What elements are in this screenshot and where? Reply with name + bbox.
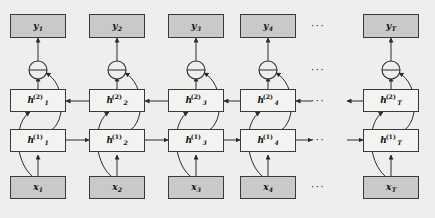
ellipsis-output-row: ···: [311, 20, 325, 31]
hidden2-node-T[interactable]: h(2)T: [363, 89, 419, 112]
hidden1-label-1: h(1)1: [27, 136, 48, 145]
output-node-2[interactable]: y2: [89, 14, 145, 38]
hidden1-node-2[interactable]: h(1)2: [89, 129, 145, 152]
hidden1-label-4: h(1)4: [257, 136, 278, 145]
input-label-2: x2: [112, 183, 122, 192]
output-node-4[interactable]: y4: [240, 14, 296, 38]
hidden2-label-T: h(2)T: [380, 96, 401, 105]
hidden2-label-1: h(2)1: [27, 96, 48, 105]
hidden1-label-3: h(1)3: [185, 136, 206, 145]
output-label-T: yT: [386, 22, 396, 31]
input-node-2[interactable]: x2: [89, 176, 145, 199]
input-label-3: x3: [191, 183, 201, 192]
output-label-3: y3: [191, 22, 201, 31]
output-label-4: y4: [263, 22, 273, 31]
input-node-1[interactable]: x1: [10, 176, 66, 199]
hidden1-node-3[interactable]: h(1)3: [168, 129, 224, 152]
hidden2-label-3: h(2)3: [185, 96, 206, 105]
output-label-1: y1: [33, 22, 43, 31]
ellipsis-input-row: ···: [311, 181, 325, 192]
output-node-1[interactable]: y1: [10, 14, 66, 38]
input-label-T: xT: [386, 183, 396, 192]
hidden2-label-2: h(2)2: [106, 96, 127, 105]
hidden2-node-3[interactable]: h(2)3: [168, 89, 224, 112]
output-node-3[interactable]: y3: [168, 14, 224, 38]
input-node-4[interactable]: x4: [240, 176, 296, 199]
ellipsis-hidden2-row: ···: [311, 95, 325, 106]
output-node-T[interactable]: yT: [363, 14, 419, 38]
hidden1-node-T[interactable]: h(1)T: [363, 129, 419, 152]
bidirectional-rnn-diagram: y1 y2 y3 y4 yT h(2)1 h(2)2 h(2)3 h(2)4 h…: [0, 0, 435, 218]
input-node-T[interactable]: xT: [363, 176, 419, 199]
hidden2-node-4[interactable]: h(2)4: [240, 89, 296, 112]
hidden2-node-2[interactable]: h(2)2: [89, 89, 145, 112]
hidden1-label-2: h(1)2: [106, 136, 127, 145]
hidden2-label-4: h(2)4: [257, 96, 278, 105]
ellipsis-hidden1-row: ···: [311, 134, 325, 145]
hidden2-node-1[interactable]: h(2)1: [10, 89, 66, 112]
input-label-1: x1: [33, 183, 43, 192]
hidden1-node-1[interactable]: h(1)1: [10, 129, 66, 152]
hidden1-node-4[interactable]: h(1)4: [240, 129, 296, 152]
input-label-4: x4: [263, 183, 273, 192]
ellipsis-sum-row: ···: [311, 64, 325, 75]
output-label-2: y2: [112, 22, 122, 31]
hidden1-label-T: h(1)T: [380, 136, 401, 145]
input-node-3[interactable]: x3: [168, 176, 224, 199]
